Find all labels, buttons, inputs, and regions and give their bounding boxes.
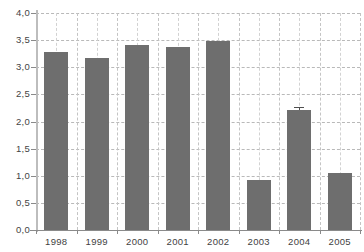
x-tick-mark-2: [117, 230, 118, 234]
y-tick-label-0-0: 0,0: [0, 224, 30, 235]
bar-1998: [44, 52, 68, 230]
x-tick-mark-7: [320, 230, 321, 234]
y-tick-mark-2-0: [31, 122, 36, 123]
bar-2004: [287, 110, 311, 230]
x-tick-mark-5: [239, 230, 240, 234]
gridline-v-8: [360, 13, 361, 230]
y-tick-mark-3-0: [31, 67, 36, 68]
y-tick-mark-0-5: [31, 203, 36, 204]
gridline-v-1: [77, 13, 78, 230]
gridline-v-4: [198, 13, 199, 230]
gridline-v-3: [158, 13, 159, 230]
x-tick-mark-0: [36, 230, 37, 234]
x-tick-mark-3: [158, 230, 159, 234]
y-tick-label-3-0: 3,0: [0, 61, 30, 72]
bar-chart: 0,00,51,01,52,02,53,03,54,0 199819992000…: [0, 0, 364, 252]
y-tick-mark-1-5: [31, 149, 36, 150]
x-tick-label-2002: 2002: [198, 236, 238, 247]
gridline-v-5: [239, 13, 240, 230]
x-tick-mark-4: [198, 230, 199, 234]
x-tick-label-1998: 1998: [36, 236, 76, 247]
bar-2000: [125, 45, 149, 230]
x-tick-mark-1: [77, 230, 78, 234]
y-tick-label-3-5: 3,5: [0, 34, 30, 45]
y-tick-label-1-5: 1,5: [0, 143, 30, 154]
y-tick-label-1-0: 1,0: [0, 170, 30, 181]
x-tick-label-1999: 1999: [77, 236, 117, 247]
bar-1999: [85, 58, 109, 230]
x-tick-label-2004: 2004: [279, 236, 319, 247]
gridline-v-7: [320, 13, 321, 230]
y-tick-label-2-5: 2,5: [0, 88, 30, 99]
y-tick-mark-1-0: [31, 176, 36, 177]
x-tick-label-2003: 2003: [239, 236, 279, 247]
x-tick-mark-8: [360, 230, 361, 234]
x-tick-label-2005: 2005: [320, 236, 360, 247]
y-tick-label-0-5: 0,5: [0, 197, 30, 208]
y-tick-mark-3-5: [31, 40, 36, 41]
y-tick-mark-4-0: [31, 13, 36, 14]
x-tick-label-2001: 2001: [158, 236, 198, 247]
bar-2001: [166, 47, 190, 230]
plot-area: [36, 13, 360, 230]
x-tick-label-2000: 2000: [117, 236, 157, 247]
bar-2005: [328, 173, 352, 230]
gridline-v-6: [279, 13, 280, 230]
x-tick-mark-6: [279, 230, 280, 234]
gridline-v-2: [117, 13, 118, 230]
y-tick-label-4-0: 4,0: [0, 7, 30, 18]
error-bar-cap-2004: [294, 107, 304, 108]
y-axis-line: [36, 10, 38, 232]
y-tick-mark-2-5: [31, 94, 36, 95]
y-tick-label-2-0: 2,0: [0, 116, 30, 127]
bar-2002: [206, 41, 230, 230]
x-axis-line: [30, 230, 362, 231]
bar-2003: [247, 180, 271, 230]
